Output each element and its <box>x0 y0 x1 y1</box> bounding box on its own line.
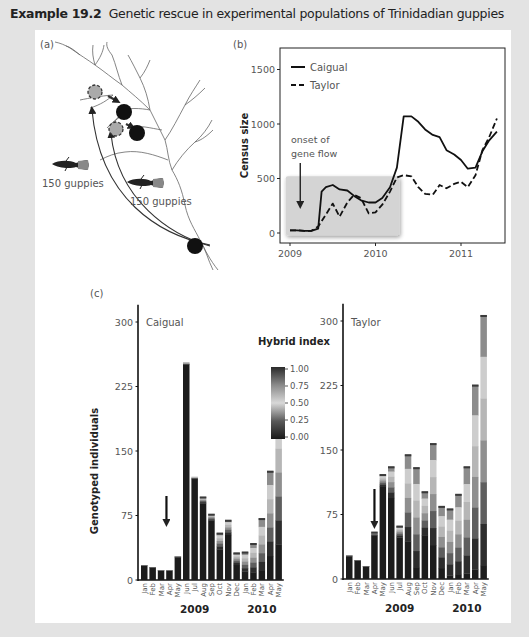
bar-cap <box>472 385 479 387</box>
bar-segment-hybrid <box>480 524 487 566</box>
bar-cap <box>259 518 266 520</box>
bar-segment-hybrid <box>275 497 282 521</box>
bar-segment-hybrid <box>405 512 412 527</box>
bar-cap <box>405 454 412 456</box>
bar-segment-hybrid <box>275 449 282 473</box>
bar-segment-hybrid <box>472 477 479 508</box>
bar-segment-resident <box>183 365 190 580</box>
x-tick-label: May <box>174 583 182 597</box>
bar-cap <box>200 497 207 499</box>
y-tick-label: 0 <box>332 574 338 585</box>
bar-segment-resident <box>447 575 454 579</box>
bar-segment-hybrid <box>413 467 420 484</box>
bar-segment-resident <box>380 487 387 579</box>
bar <box>242 552 249 580</box>
bar-segment-resident <box>275 544 282 580</box>
bar-segment-resident <box>191 479 198 580</box>
bar-segment-hybrid <box>200 502 207 503</box>
x-tick-label: 2010 <box>363 248 387 259</box>
bar-cap <box>217 533 224 535</box>
bar-segment-hybrid <box>422 528 429 536</box>
bar-segment-hybrid <box>455 548 462 562</box>
bar-segment-hybrid <box>225 525 232 528</box>
bar-segment-resident <box>438 568 445 579</box>
bar-segment-resident <box>430 545 437 579</box>
y-axis-label: Census size <box>239 112 250 178</box>
bar-segment-hybrid <box>455 534 462 548</box>
x-tick-label: Sep <box>413 581 421 595</box>
bar <box>422 491 429 579</box>
bar-segment-hybrid <box>250 563 257 568</box>
bar <box>141 565 148 580</box>
bar-segment-hybrid <box>380 480 387 482</box>
bar <box>149 567 156 580</box>
resident-population-circle-icon <box>129 125 145 141</box>
bar-segment-hybrid <box>242 568 249 572</box>
bar-segment-hybrid <box>267 528 274 542</box>
bar-cap <box>388 466 395 468</box>
bar-segment-resident <box>208 520 215 580</box>
bar-segment-hybrid <box>455 561 462 575</box>
x-tick-label: 2009 <box>278 248 302 259</box>
x-tick-label: Jul <box>396 582 404 592</box>
bar-segment-hybrid <box>430 443 437 460</box>
bar-segment-hybrid <box>225 530 232 533</box>
bar-segment-resident <box>158 571 165 580</box>
bar-cap <box>438 506 445 508</box>
bar-segment-resident <box>354 560 361 579</box>
panel-a-map: (a) <box>40 39 218 270</box>
legend-label-taylor: Taylor <box>309 80 340 91</box>
x-tick-label: Apr <box>371 582 379 594</box>
year-label: 2009 <box>180 603 209 615</box>
x-tick-label: Mar <box>363 582 371 595</box>
bar-segment-resident <box>259 571 266 580</box>
bar-segment-hybrid <box>405 527 412 542</box>
x-tick-label: Oct <box>216 583 224 595</box>
bar-segment-resident <box>480 566 487 579</box>
x-tick-label: Feb <box>455 581 463 594</box>
release-label-1: 150 guppies <box>42 178 104 189</box>
bar-segment-resident <box>455 575 462 579</box>
bar-segment-hybrid <box>388 487 395 493</box>
x-tick-label: Jul <box>191 583 199 593</box>
x-tick-label: Nov <box>430 582 438 596</box>
bar-segment-hybrid <box>267 485 274 499</box>
bar-segment-hybrid <box>430 460 437 477</box>
bar-cap <box>242 552 249 554</box>
bar-segment-hybrid <box>455 507 462 521</box>
bar <box>405 454 412 579</box>
legend-title: Hybrid index <box>258 336 331 347</box>
bar-segment-hybrid <box>447 531 454 542</box>
bar-segment-hybrid <box>422 521 429 529</box>
bar-segment-hybrid <box>405 483 412 498</box>
bar-segment-hybrid <box>405 498 412 513</box>
colorbar-tick-label: 0.00 <box>290 432 309 442</box>
bar-segment-hybrid <box>480 482 487 524</box>
chart-title-taylor: Taylor <box>350 317 381 328</box>
y-tick-label: 75 <box>121 510 133 521</box>
bar-segment-hybrid <box>447 542 454 553</box>
bar-segment-hybrid <box>380 485 387 487</box>
x-tick-label: Jan <box>346 582 354 594</box>
bar-cap <box>447 508 454 510</box>
bar-cap <box>464 466 471 468</box>
bar <box>267 471 274 580</box>
colorbar-tick-label: 0.75 <box>290 381 309 391</box>
panel-b-tag: (b) <box>233 39 247 50</box>
bar-segment-hybrid <box>217 538 224 541</box>
y-tick-label: 0 <box>269 228 275 239</box>
y-tick-label: 0 <box>127 575 133 586</box>
bar-segment-resident <box>371 535 378 579</box>
x-tick-label: Dec <box>233 583 241 597</box>
bar-segment-hybrid <box>430 494 437 511</box>
bar-segment-hybrid <box>267 471 274 485</box>
bar-segment-hybrid <box>225 532 232 535</box>
bar-cap <box>225 520 232 522</box>
y-tick-label: 225 <box>115 381 133 392</box>
source-site-circle-icon <box>187 238 203 254</box>
bar-segment-hybrid <box>472 385 479 416</box>
bar-cap <box>380 474 387 476</box>
resident-population-circle-icon <box>116 104 132 120</box>
bar-segment-hybrid <box>405 454 412 469</box>
bar <box>354 560 361 579</box>
